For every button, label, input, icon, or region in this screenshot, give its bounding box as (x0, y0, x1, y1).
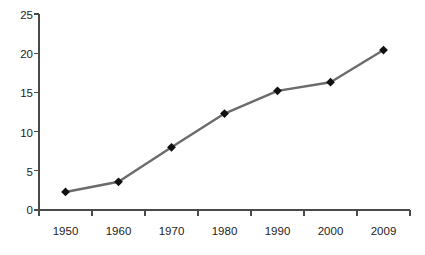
line-chart: 0 5 10 15 20 25 (0, 0, 425, 255)
series-line (66, 50, 384, 192)
x-tick-label: 1950 (53, 225, 79, 237)
y-axis-tick-labels: 0 5 10 15 20 25 (20, 9, 33, 216)
data-point-marker (61, 188, 70, 197)
chart-canvas: 0 5 10 15 20 25 (0, 0, 425, 255)
data-point-marker (273, 86, 282, 95)
y-axis-tick-marks (34, 14, 39, 210)
y-tick-label: 10 (20, 127, 33, 139)
y-tick-label: 5 (27, 166, 33, 178)
y-tick-label: 15 (20, 87, 33, 99)
series-markers (61, 46, 388, 197)
x-tick-label: 2000 (318, 225, 344, 237)
x-tick-label: 1970 (159, 225, 185, 237)
x-tick-label: 1960 (106, 225, 132, 237)
y-tick-label: 0 (27, 204, 33, 216)
x-axis-tick-marks (39, 210, 410, 216)
x-tick-label: 2009 (371, 225, 397, 237)
x-tick-label: 1980 (212, 225, 238, 237)
y-tick-label: 20 (20, 48, 33, 60)
x-axis-tick-labels: 1950 1960 1970 1980 1990 2000 2009 (53, 225, 397, 237)
x-tick-label: 1990 (265, 225, 291, 237)
y-tick-label: 25 (20, 9, 33, 21)
